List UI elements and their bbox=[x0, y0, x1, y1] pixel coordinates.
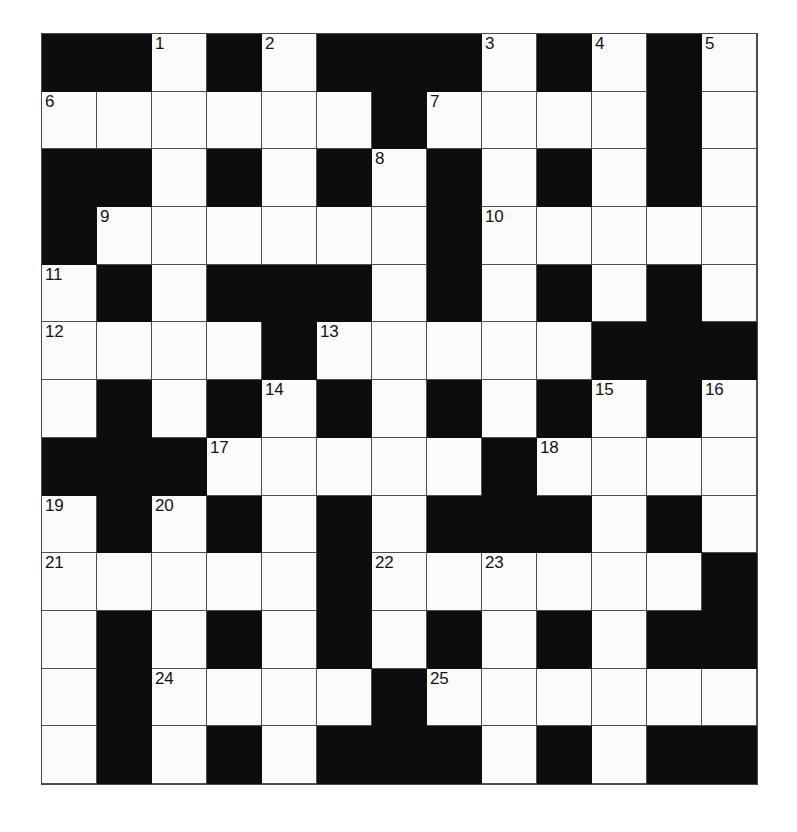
letter-cell[interactable] bbox=[152, 92, 207, 150]
letter-cell[interactable] bbox=[592, 207, 647, 265]
letter-cell[interactable]: 19 bbox=[42, 496, 97, 554]
letter-cell[interactable] bbox=[152, 149, 207, 207]
letter-cell[interactable]: 1 bbox=[152, 34, 207, 92]
letter-cell[interactable]: 3 bbox=[482, 34, 537, 92]
crossword-grid[interactable]: 1234567891011121314151617181920212223242… bbox=[41, 33, 758, 785]
letter-cell[interactable]: 9 bbox=[97, 207, 152, 265]
letter-cell[interactable]: 14 bbox=[262, 380, 317, 438]
letter-cell[interactable] bbox=[207, 322, 262, 380]
letter-cell[interactable] bbox=[592, 553, 647, 611]
letter-cell[interactable]: 23 bbox=[482, 553, 537, 611]
letter-cell[interactable] bbox=[317, 92, 372, 150]
letter-cell[interactable] bbox=[372, 207, 427, 265]
letter-cell[interactable] bbox=[482, 322, 537, 380]
letter-cell[interactable] bbox=[262, 669, 317, 727]
letter-cell[interactable]: 13 bbox=[317, 322, 372, 380]
letter-cell[interactable] bbox=[317, 438, 372, 496]
letter-cell[interactable]: 7 bbox=[427, 92, 482, 150]
letter-cell[interactable] bbox=[702, 265, 757, 323]
letter-cell[interactable] bbox=[427, 553, 482, 611]
letter-cell[interactable]: 10 bbox=[482, 207, 537, 265]
letter-cell[interactable] bbox=[482, 265, 537, 323]
letter-cell[interactable] bbox=[207, 207, 262, 265]
letter-cell[interactable] bbox=[207, 92, 262, 150]
letter-cell[interactable]: 12 bbox=[42, 322, 97, 380]
letter-cell[interactable] bbox=[592, 92, 647, 150]
letter-cell[interactable] bbox=[592, 726, 647, 784]
letter-cell[interactable] bbox=[372, 438, 427, 496]
letter-cell[interactable]: 25 bbox=[427, 669, 482, 727]
letter-cell[interactable]: 6 bbox=[42, 92, 97, 150]
letter-cell[interactable] bbox=[482, 611, 537, 669]
letter-cell[interactable] bbox=[592, 669, 647, 727]
letter-cell[interactable] bbox=[702, 496, 757, 554]
letter-cell[interactable] bbox=[482, 669, 537, 727]
letter-cell[interactable] bbox=[482, 92, 537, 150]
letter-cell[interactable]: 20 bbox=[152, 496, 207, 554]
letter-cell[interactable]: 16 bbox=[702, 380, 757, 438]
letter-cell[interactable] bbox=[152, 265, 207, 323]
letter-cell[interactable] bbox=[537, 92, 592, 150]
letter-cell[interactable] bbox=[537, 553, 592, 611]
letter-cell[interactable] bbox=[702, 92, 757, 150]
letter-cell[interactable] bbox=[592, 496, 647, 554]
letter-cell[interactable]: 18 bbox=[537, 438, 592, 496]
letter-cell[interactable] bbox=[42, 669, 97, 727]
letter-cell[interactable] bbox=[152, 726, 207, 784]
letter-cell[interactable]: 22 bbox=[372, 553, 427, 611]
letter-cell[interactable] bbox=[152, 553, 207, 611]
letter-cell[interactable] bbox=[152, 380, 207, 438]
letter-cell[interactable] bbox=[97, 553, 152, 611]
letter-cell[interactable] bbox=[592, 265, 647, 323]
letter-cell[interactable]: 21 bbox=[42, 553, 97, 611]
letter-cell[interactable]: 5 bbox=[702, 34, 757, 92]
letter-cell[interactable] bbox=[592, 149, 647, 207]
letter-cell[interactable] bbox=[262, 726, 317, 784]
letter-cell[interactable] bbox=[537, 207, 592, 265]
letter-cell[interactable] bbox=[262, 92, 317, 150]
letter-cell[interactable]: 24 bbox=[152, 669, 207, 727]
letter-cell[interactable] bbox=[262, 149, 317, 207]
letter-cell[interactable]: 11 bbox=[42, 265, 97, 323]
letter-cell[interactable] bbox=[262, 496, 317, 554]
letter-cell[interactable] bbox=[152, 611, 207, 669]
letter-cell[interactable] bbox=[262, 207, 317, 265]
letter-cell[interactable] bbox=[262, 553, 317, 611]
letter-cell[interactable] bbox=[647, 207, 702, 265]
letter-cell[interactable]: 17 bbox=[207, 438, 262, 496]
letter-cell[interactable] bbox=[317, 669, 372, 727]
letter-cell[interactable] bbox=[537, 322, 592, 380]
letter-cell[interactable] bbox=[372, 611, 427, 669]
letter-cell[interactable] bbox=[647, 669, 702, 727]
letter-cell[interactable] bbox=[647, 438, 702, 496]
letter-cell[interactable]: 2 bbox=[262, 34, 317, 92]
letter-cell[interactable] bbox=[152, 207, 207, 265]
letter-cell[interactable] bbox=[647, 553, 702, 611]
letter-cell[interactable]: 8 bbox=[372, 149, 427, 207]
letter-cell[interactable] bbox=[702, 438, 757, 496]
letter-cell[interactable] bbox=[262, 611, 317, 669]
letter-cell[interactable] bbox=[702, 669, 757, 727]
letter-cell[interactable] bbox=[372, 322, 427, 380]
letter-cell[interactable] bbox=[427, 438, 482, 496]
letter-cell[interactable] bbox=[207, 553, 262, 611]
letter-cell[interactable] bbox=[42, 611, 97, 669]
letter-cell[interactable] bbox=[97, 92, 152, 150]
letter-cell[interactable] bbox=[42, 726, 97, 784]
letter-cell[interactable] bbox=[372, 496, 427, 554]
letter-cell[interactable] bbox=[592, 611, 647, 669]
letter-cell[interactable] bbox=[537, 669, 592, 727]
letter-cell[interactable] bbox=[372, 380, 427, 438]
letter-cell[interactable] bbox=[702, 207, 757, 265]
letter-cell[interactable] bbox=[482, 380, 537, 438]
letter-cell[interactable] bbox=[317, 207, 372, 265]
letter-cell[interactable] bbox=[482, 149, 537, 207]
letter-cell[interactable] bbox=[592, 438, 647, 496]
letter-cell[interactable] bbox=[702, 149, 757, 207]
letter-cell[interactable] bbox=[372, 265, 427, 323]
letter-cell[interactable] bbox=[207, 669, 262, 727]
letter-cell[interactable] bbox=[427, 322, 482, 380]
letter-cell[interactable] bbox=[262, 438, 317, 496]
letter-cell[interactable] bbox=[97, 322, 152, 380]
letter-cell[interactable] bbox=[152, 322, 207, 380]
